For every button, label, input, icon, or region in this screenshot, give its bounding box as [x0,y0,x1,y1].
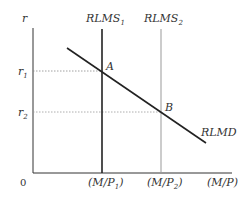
y-axis-label: r [22,12,28,25]
rlmd-curve [67,48,206,143]
rlmd-label: RLMD [200,126,237,139]
rlms-rlmd-diagram: r 0 (M/P) r1 r2 (M/P1) (M/P2) RLMS1 RLMS… [0,0,247,199]
point-b-label: B [164,101,173,114]
point-a-label: A [105,60,114,73]
x-axis-label: (M/P) [207,176,238,189]
rlms2-label: RLMS2 [143,12,183,27]
mp2-label: (M/P2) [147,176,182,191]
mp1-label: (M/P1) [88,176,123,191]
rlms1-label: RLMS1 [85,12,125,27]
r2-label: r2 [18,106,28,121]
r1-label: r1 [18,65,28,80]
origin-label: 0 [20,177,26,188]
